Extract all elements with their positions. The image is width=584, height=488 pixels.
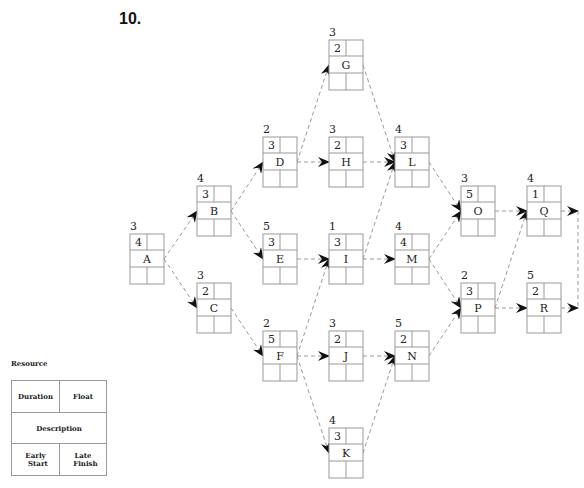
dependency-arrow-a-c <box>164 259 197 308</box>
activity-node-a: 34A <box>130 220 164 284</box>
resource-label: 3 <box>197 269 204 282</box>
description-label: K <box>342 447 351 460</box>
description-label: L <box>408 156 416 169</box>
activity-node-b: 43B <box>197 172 231 236</box>
dependency-arrow-b-d <box>231 162 263 211</box>
activity-node-n: 52N <box>395 317 429 381</box>
resource-label: 3 <box>329 317 336 330</box>
description-label: J <box>343 350 348 363</box>
activity-node-o: 35O <box>461 172 495 236</box>
dependency-arrow-n-p <box>429 308 461 356</box>
description-label: O <box>473 205 482 218</box>
resource-label: 2 <box>263 123 270 136</box>
description-label: A <box>142 253 152 266</box>
resource-label: 2 <box>461 269 468 282</box>
activity-node-g: 32G <box>329 26 363 90</box>
dependency-arrow-b-e <box>231 211 263 259</box>
duration-value: 3 <box>334 430 341 443</box>
legend-title: Resource <box>11 359 47 368</box>
dependency-arrow-c-f <box>231 308 263 356</box>
resource-label: 4 <box>395 123 402 136</box>
legend-box: Duration Float Description Early Start L… <box>11 380 107 476</box>
duration-value: 1 <box>532 188 539 201</box>
resource-label: 4 <box>197 172 204 185</box>
activity-node-c: 32C <box>197 269 231 333</box>
duration-value: 3 <box>400 139 407 152</box>
description-label: B <box>210 205 218 218</box>
activity-node-m: 44M <box>395 220 429 284</box>
resource-label: 4 <box>395 220 402 233</box>
activity-node-d: 23D <box>263 123 297 187</box>
duration-value: 2 <box>532 285 539 298</box>
activity-node-l: 43L <box>395 123 429 187</box>
dependency-arrow-a-b <box>164 211 197 259</box>
resource-label: 3 <box>461 172 468 185</box>
activity-node-f: 25F <box>263 317 297 381</box>
dependency-arrow-l-o <box>429 162 461 211</box>
resource-label: 1 <box>329 220 336 233</box>
dependency-arrow-d-g <box>297 65 329 162</box>
resource-label: 5 <box>263 220 270 233</box>
dependency-arrow-m-p <box>429 259 461 308</box>
description-label: D <box>276 156 285 169</box>
legend-early-start: Early Start <box>12 444 60 475</box>
description-label: C <box>210 302 218 315</box>
description-label: H <box>341 156 351 169</box>
description-label: I <box>344 253 348 266</box>
legend-float: Float <box>60 381 106 413</box>
resource-label: 3 <box>329 26 336 39</box>
duration-value: 3 <box>202 188 209 201</box>
description-label: R <box>540 302 549 315</box>
description-label: G <box>342 59 351 72</box>
resource-label: 4 <box>527 172 534 185</box>
duration-value: 2 <box>202 285 209 298</box>
activity-node-i: 13I <box>329 220 363 284</box>
dependency-arrow-g-l <box>363 65 395 162</box>
description-label: P <box>474 302 482 315</box>
resource-label: 2 <box>263 317 270 330</box>
duration-value: 3 <box>466 285 473 298</box>
description-label: F <box>276 350 284 363</box>
activity-node-r: 52R <box>527 269 561 333</box>
description-label: Q <box>539 205 548 218</box>
duration-value: 4 <box>400 236 407 249</box>
duration-value: 3 <box>334 236 341 249</box>
dependency-arrow-f-k <box>297 356 329 453</box>
duration-value: 5 <box>268 333 275 346</box>
resource-label: 5 <box>395 317 402 330</box>
dependency-arrow-f-i <box>297 259 329 356</box>
activity-node-j: 32J <box>329 317 363 381</box>
dependency-arrow-i-l <box>363 162 395 259</box>
activity-node-p: 23P <box>461 269 495 333</box>
duration-value: 2 <box>400 333 407 346</box>
resource-label: 4 <box>329 414 336 427</box>
duration-value: 3 <box>268 139 275 152</box>
description-label: E <box>276 253 284 266</box>
description-label: M <box>406 253 417 266</box>
duration-value: 4 <box>135 236 142 249</box>
duration-value: 2 <box>334 42 341 55</box>
dependency-arrow-k-n <box>363 356 395 453</box>
legend-duration: Duration <box>12 381 60 413</box>
duration-value: 2 <box>334 333 341 346</box>
description-label: N <box>407 350 417 363</box>
duration-value: 3 <box>268 236 275 249</box>
activity-node-h: 32H <box>329 123 363 187</box>
duration-value: 2 <box>334 139 341 152</box>
activity-node-e: 53E <box>263 220 297 284</box>
dependency-arrow-p-q <box>495 211 527 308</box>
dependency-arrow-m-o <box>429 211 461 259</box>
resource-label: 3 <box>329 123 336 136</box>
activity-node-q: 41Q <box>527 172 561 236</box>
activity-node-k: 43K <box>329 414 363 478</box>
duration-value: 5 <box>466 188 473 201</box>
legend-late-finish: Late Finish <box>60 444 106 475</box>
resource-label: 5 <box>527 269 534 282</box>
resource-label: 3 <box>130 220 137 233</box>
legend-description: Description <box>12 413 106 444</box>
